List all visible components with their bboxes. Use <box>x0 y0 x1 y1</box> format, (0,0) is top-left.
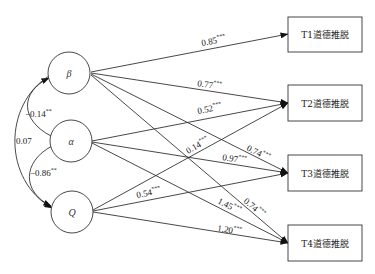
outcome-box-t2: T2道德推脱 <box>288 85 362 121</box>
corr-label-alpha-q: −0.86** <box>30 167 57 178</box>
svg-text:α: α <box>68 136 74 147</box>
outcome-box-t3: T3道德推脱 <box>288 155 362 191</box>
svg-text:β: β <box>66 68 72 79</box>
predictor-node-beta: β <box>48 52 90 94</box>
path-label-q-t3: 0.54*** <box>135 184 161 200</box>
path-lines <box>91 34 288 243</box>
svg-text:T1道德推脱: T1道德推脱 <box>301 29 349 40</box>
path-beta-t2 <box>91 73 288 103</box>
predictor-node-alpha: α <box>50 120 92 162</box>
path-diagram: β α Q T1道德推脱 T2道德推脱 T3道德推脱 T4道德推脱 −0.14*… <box>0 0 375 274</box>
svg-text:Q: Q <box>68 207 76 218</box>
path-label-alpha-t2: 0.52*** <box>196 100 222 116</box>
corr-label-beta-q: 0.07 <box>16 136 32 146</box>
corr-label-beta-alpha: −0.14** <box>25 108 52 119</box>
path-beta-t1 <box>91 34 288 72</box>
svg-text:T4道德推脱: T4道德推脱 <box>301 238 349 249</box>
path-label-alpha-t3: 0.97*** <box>222 151 248 166</box>
predictor-node-q: Q <box>51 191 93 233</box>
path-alpha-t2 <box>92 103 288 141</box>
path-beta-t4 <box>91 75 288 243</box>
svg-text:T3道德推脱: T3道德推脱 <box>301 168 349 179</box>
curve-beta-alpha <box>27 78 51 136</box>
svg-text:T2道德推脱: T2道德推脱 <box>301 98 349 109</box>
path-label-beta-t3: 0.74*** <box>245 142 272 163</box>
path-q-t4 <box>93 212 288 243</box>
outcome-box-t4: T4道德推脱 <box>288 225 362 261</box>
path-label-q-t4: 1.20*** <box>217 222 243 237</box>
path-label-beta-t1: 0.85*** <box>200 32 226 48</box>
outcome-box-t1: T1道德推脱 <box>288 17 362 52</box>
